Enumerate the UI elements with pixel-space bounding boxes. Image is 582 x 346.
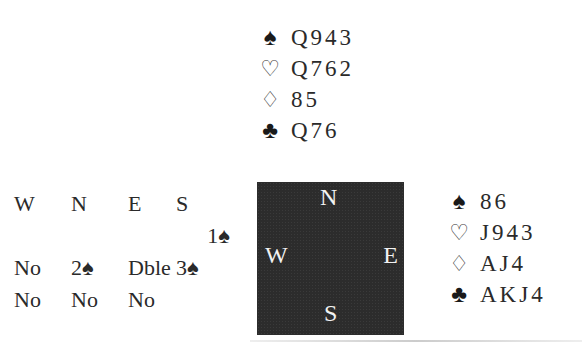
east-diamonds-cards: AJ4 xyxy=(480,251,526,277)
bid-header-south: S xyxy=(176,191,233,217)
north-spades: ♠ Q943 xyxy=(255,22,354,53)
diamond-icon: ♢ xyxy=(255,87,285,113)
north-clubs: ♣ Q76 xyxy=(255,115,354,146)
compass-west: W xyxy=(265,242,288,269)
compass-box: N W E S xyxy=(257,182,404,335)
bidding-row: No 2♠ Dble 3♠ xyxy=(14,252,233,284)
bid-header-east: E xyxy=(128,191,176,217)
club-icon: ♣ xyxy=(255,117,285,144)
north-diamonds-cards: 85 xyxy=(291,87,320,113)
bid-header-north: N xyxy=(71,191,128,217)
east-hearts: ♡ J943 xyxy=(444,217,546,248)
bidding-table: W N E S 1♠ No 2♠ Dble 3♠ No No No xyxy=(14,188,233,316)
heart-icon: ♡ xyxy=(444,220,474,246)
compass-north: N xyxy=(320,184,337,211)
spade-icon: ♠ xyxy=(255,24,285,51)
bid-header-west: W xyxy=(14,191,71,217)
east-hand: ♠ 86 ♡ J943 ♢ AJ4 ♣ AKJ4 xyxy=(444,186,546,310)
compass-east: E xyxy=(383,242,398,269)
east-spades-cards: 86 xyxy=(480,189,509,215)
north-hearts: ♡ Q762 xyxy=(255,53,354,84)
north-clubs-cards: Q76 xyxy=(291,118,340,144)
bid-cell: 1♠ xyxy=(176,223,230,249)
east-diamonds: ♢ AJ4 xyxy=(444,248,546,279)
page-edge-shadow xyxy=(250,340,582,342)
bid-cell: No xyxy=(14,255,71,281)
north-diamonds: ♢ 85 xyxy=(255,84,354,115)
club-icon: ♣ xyxy=(444,281,474,308)
east-spades: ♠ 86 xyxy=(444,186,546,217)
bid-cell: Dble xyxy=(128,255,176,281)
north-hand: ♠ Q943 ♡ Q762 ♢ 85 ♣ Q76 xyxy=(255,22,354,146)
compass-south: S xyxy=(324,300,337,327)
bidding-header: W N E S xyxy=(14,188,233,220)
heart-icon: ♡ xyxy=(255,56,285,82)
east-clubs-cards: AKJ4 xyxy=(480,282,546,308)
bid-cell: No xyxy=(71,287,128,313)
bid-cell: 2♠ xyxy=(71,255,128,281)
bid-cell: No xyxy=(14,287,71,313)
north-spades-cards: Q943 xyxy=(291,25,354,51)
east-hearts-cards: J943 xyxy=(480,220,535,246)
east-clubs: ♣ AKJ4 xyxy=(444,279,546,310)
bidding-row: 1♠ xyxy=(14,220,233,252)
north-hearts-cards: Q762 xyxy=(291,56,354,82)
bid-cell: No xyxy=(128,287,176,313)
spade-icon: ♠ xyxy=(444,188,474,215)
bid-cell: 3♠ xyxy=(176,255,233,281)
diamond-icon: ♢ xyxy=(444,251,474,277)
bidding-row: No No No xyxy=(14,284,233,316)
